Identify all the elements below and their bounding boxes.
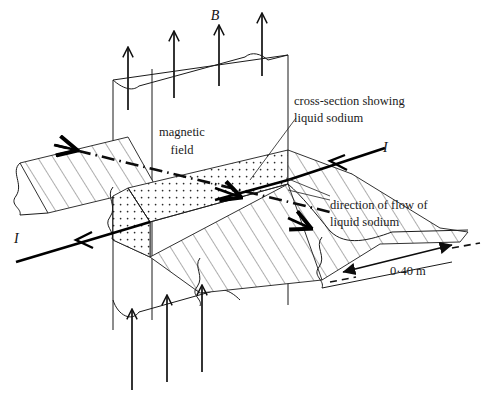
cross-section-label-line2: liquid sodium [294, 111, 363, 125]
physics-diagram: B magnetic field cross-section showing l… [0, 0, 489, 405]
figure-root: B magnetic field cross-section showing l… [0, 0, 489, 405]
magnetic-field-label-line1: magnetic [159, 125, 205, 139]
magnetic-field-label-line2: field [171, 143, 195, 157]
b-field-label: B [211, 8, 220, 23]
flow-direction-label-line2: liquid sodium [330, 215, 399, 229]
dimension-label: 0·40 m [390, 264, 426, 278]
cross-section-label-line1: cross-section showing [294, 94, 405, 108]
flow-direction-label-line1: direction of flow of [330, 198, 428, 212]
